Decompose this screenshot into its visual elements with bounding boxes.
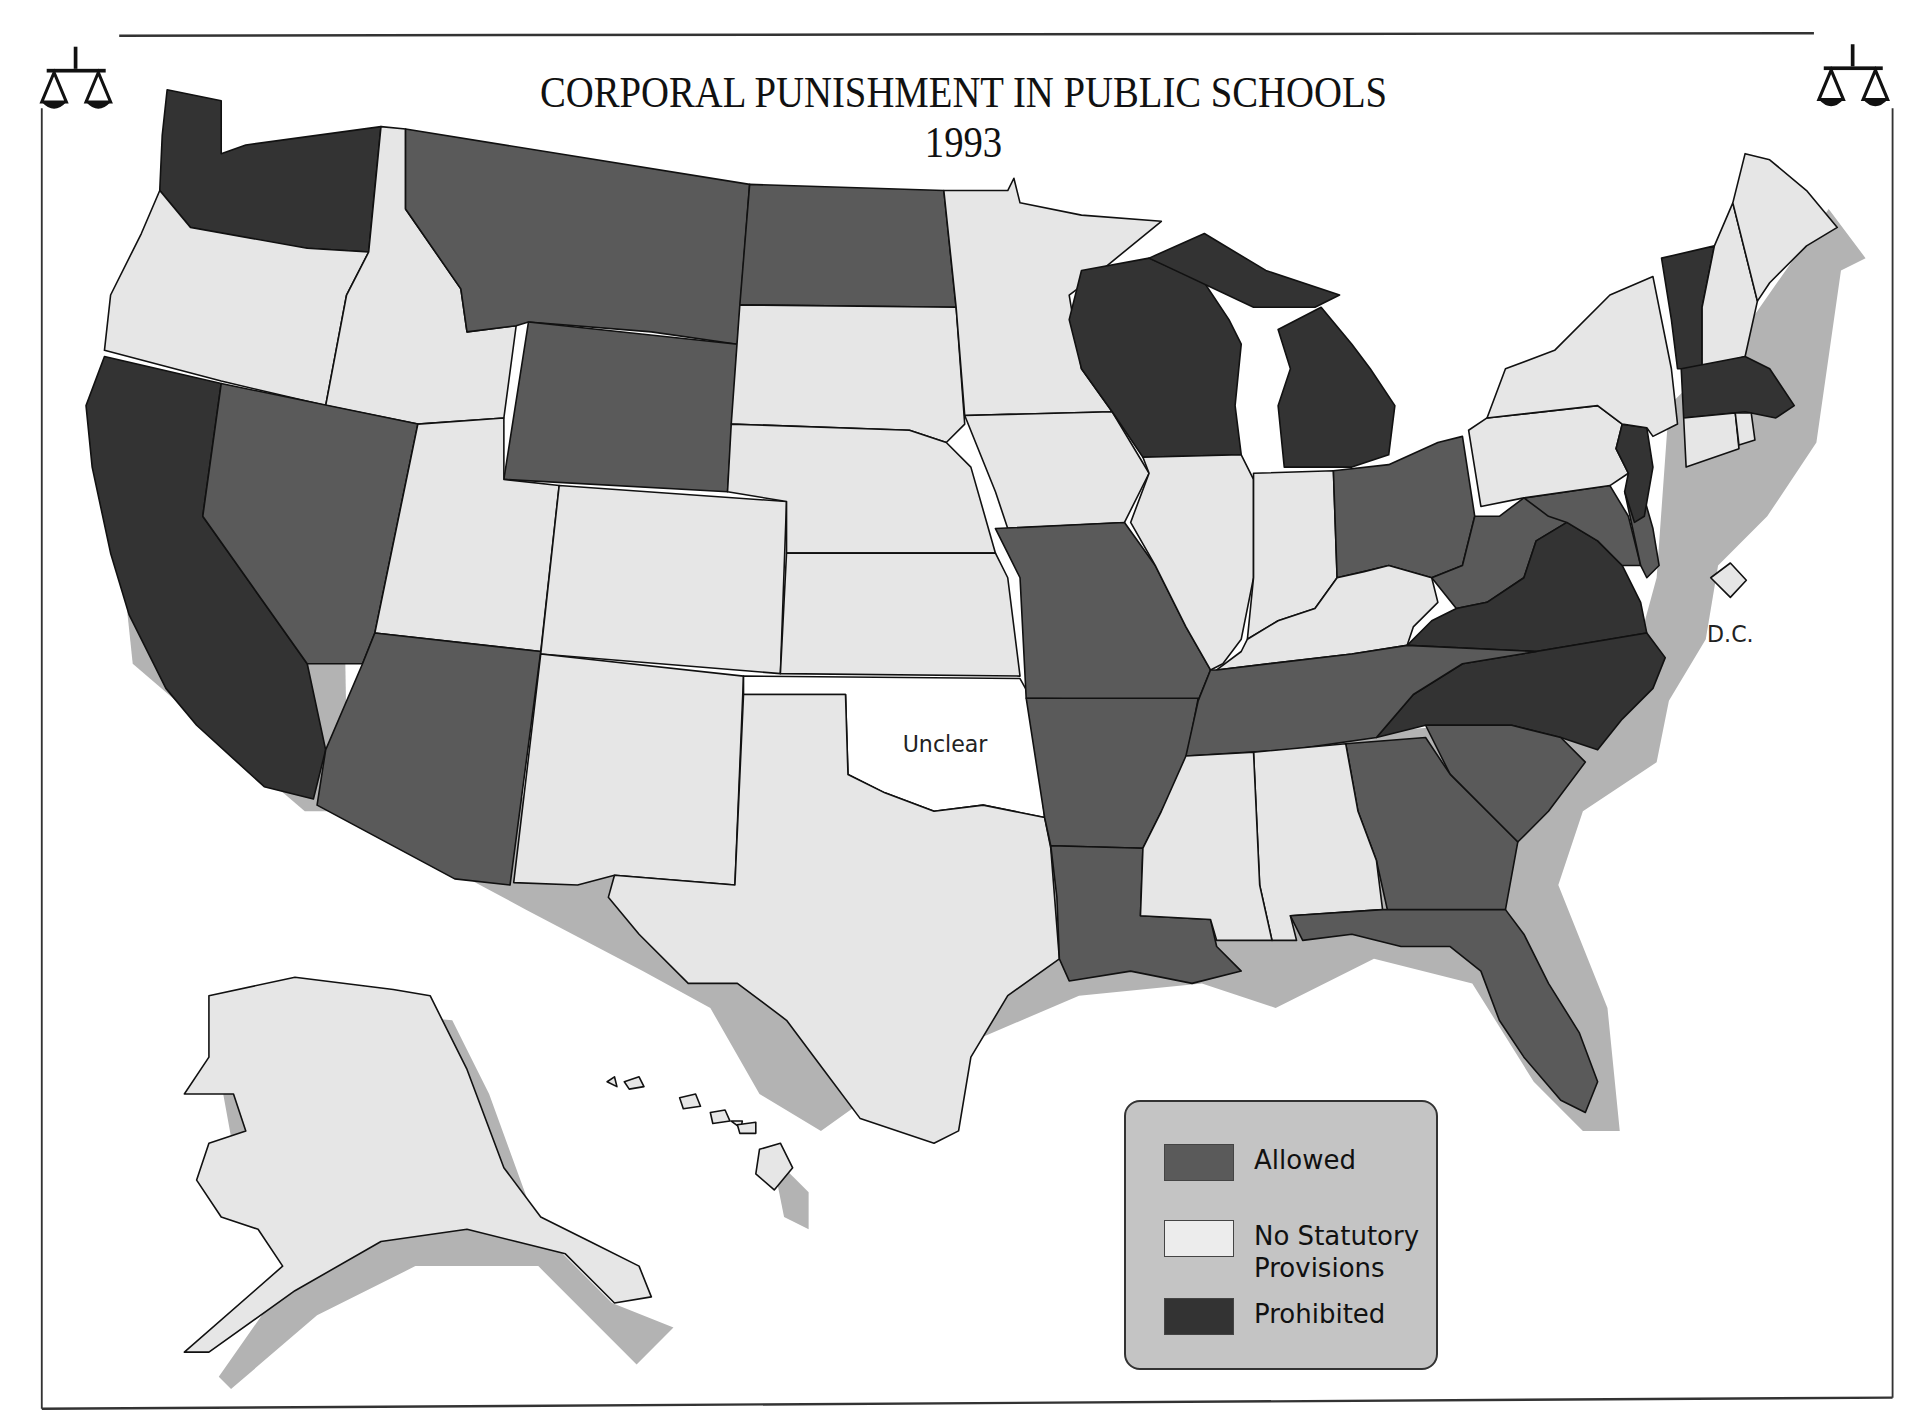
legend-label-no-statutory-line1: No Statutory — [1254, 1220, 1419, 1252]
state-kansas — [780, 553, 1020, 676]
legend-item-prohibited: Prohibited — [1164, 1298, 1385, 1335]
legend-label-prohibited: Prohibited — [1254, 1298, 1385, 1330]
scales-of-justice-icon — [42, 47, 111, 109]
frame-bottom-line — [42, 1398, 1893, 1409]
state-iowa — [965, 412, 1149, 529]
dc-label: D.C. — [1707, 621, 1754, 647]
state-south-dakota — [731, 305, 965, 443]
legend-swatch-no-statutory — [1164, 1220, 1234, 1257]
map-title: CORPORAL PUNISHMENT IN PUBLIC SCHOOLS — [135, 66, 1792, 118]
legend: Allowed No Statutory Provisions Prohibit… — [1124, 1100, 1438, 1370]
map-year: 1993 — [135, 116, 1792, 168]
us-map: Unclear D.C. — [0, 0, 1927, 1421]
state-wyoming — [504, 322, 738, 492]
legend-label-no-statutory: No Statutory Provisions — [1254, 1220, 1419, 1284]
legend-label-allowed: Allowed — [1254, 1144, 1356, 1176]
state-colorado — [541, 486, 787, 674]
legend-label-no-statutory-line2: Provisions — [1254, 1252, 1419, 1284]
legend-swatch-allowed — [1164, 1144, 1234, 1181]
frame-top-line — [119, 33, 1814, 35]
oklahoma-label: Unclear — [903, 731, 989, 757]
legend-item-no-statutory: No Statutory Provisions — [1164, 1220, 1419, 1284]
state-north-dakota — [740, 184, 956, 307]
state-new-mexico — [514, 654, 744, 885]
scales-of-justice-icon — [1819, 44, 1888, 106]
state-arizona — [317, 633, 541, 885]
legend-item-allowed: Allowed — [1164, 1144, 1356, 1181]
state-rhode-island — [1735, 413, 1755, 445]
legend-swatch-prohibited — [1164, 1298, 1234, 1335]
